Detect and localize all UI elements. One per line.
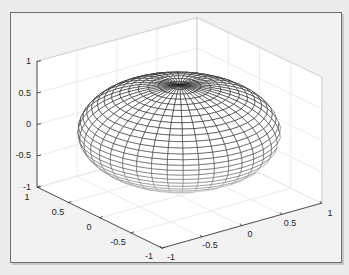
y-tick-label: 0.5 [52, 207, 65, 217]
x-tick-label: -0.5 [202, 240, 218, 250]
ellipsoid-mesh [78, 72, 280, 193]
plot-3d-axes: 1 0.5 0 -0.5 -1 1 0.5 0 -0.5 -1 -1 -0.5 … [0, 0, 349, 275]
y-tick-label: -1 [145, 251, 153, 261]
x-tick-label: 1 [327, 208, 332, 218]
z-tick-label: -0.5 [15, 150, 31, 160]
x-tick-label: 0 [247, 229, 252, 239]
z-tick-label: 0.5 [18, 88, 31, 98]
x-tick-label: 0.5 [284, 218, 297, 228]
y-tick-label: -0.5 [110, 237, 126, 247]
y-tick-label: 1 [24, 192, 29, 202]
z-tick-label: 0 [26, 119, 31, 129]
y-tick-label: 0 [86, 222, 91, 232]
x-tick-label: -1 [167, 252, 175, 262]
z-tick-label: -1 [23, 182, 31, 192]
z-tick-label: 1 [26, 56, 31, 66]
